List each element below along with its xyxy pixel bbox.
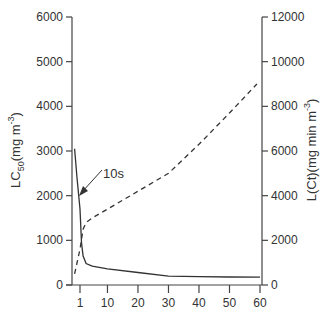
left-tick-label: 2000: [36, 189, 63, 203]
x-tick-label: 10: [101, 296, 115, 310]
right-tick-label: 4000: [271, 189, 298, 203]
left-axis-label: LC50(mg m-3): [6, 112, 26, 188]
right-tick-label: 12000: [271, 10, 305, 24]
x-tick-label: 1: [77, 296, 84, 310]
right-tick-label: 8000: [271, 99, 298, 113]
x-tick-label: 50: [223, 296, 237, 310]
right-tick-label: 0: [271, 278, 278, 292]
left-tick-label: 0: [56, 278, 63, 292]
annotation: 10s: [79, 166, 124, 196]
lct-series-line: [75, 84, 257, 274]
x-tick-label: 20: [131, 296, 145, 310]
annotation-label: 10s: [103, 166, 124, 181]
axes: 0100020003000400050006000020004000600080…: [6, 10, 319, 310]
left-tick-label: 5000: [36, 55, 63, 69]
right-tick-label: 10000: [271, 55, 305, 69]
dual-axis-line-chart: 0100020003000400050006000020004000600080…: [0, 0, 328, 322]
left-tick-label: 1000: [36, 233, 63, 247]
right-tick-label: 6000: [271, 144, 298, 158]
left-tick-label: 6000: [36, 10, 63, 24]
x-tick-label: 60: [253, 296, 267, 310]
right-axis-label: L(Ct)(mg min m-3): [302, 99, 319, 202]
x-tick-label: 40: [192, 296, 206, 310]
left-tick-label: 4000: [36, 99, 63, 113]
left-tick-label: 3000: [36, 144, 63, 158]
right-tick-label: 2000: [271, 233, 298, 247]
x-tick-label: 30: [162, 296, 176, 310]
